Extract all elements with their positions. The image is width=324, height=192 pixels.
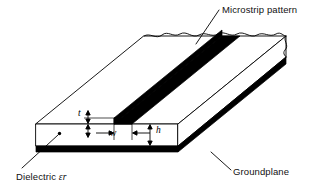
label-dielectric-text: Dielectric: [16, 171, 59, 182]
microstrip-diagram: [0, 0, 324, 192]
label-groundplane: Groundplane: [233, 166, 289, 177]
dimension-label-h: h: [156, 125, 161, 135]
label-dielectric: Dielectric εr: [16, 171, 66, 182]
label-microstrip-pattern: Microstrip pattern: [222, 4, 297, 15]
dimension-label-t: t: [78, 108, 81, 118]
dimension-label-w: w: [110, 128, 116, 138]
label-dielectric-subscript: r: [63, 172, 67, 182]
